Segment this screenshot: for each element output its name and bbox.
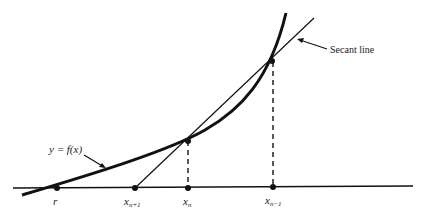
secant-line <box>135 18 314 188</box>
f-x-n-point <box>185 138 191 144</box>
x-n-plus-1-point <box>132 185 138 191</box>
x-n-minus-1-point <box>270 184 276 190</box>
curve-label: y = f(x) <box>48 143 82 156</box>
x-n-label: xn <box>182 195 192 209</box>
root-label: r <box>53 195 58 207</box>
curve-arrowhead-icon <box>99 163 106 168</box>
x-n-point <box>185 185 191 191</box>
x-n-plus-1-label: xn+1 <box>123 195 141 209</box>
root-point <box>54 185 60 191</box>
diagram-canvas: y = f(x) Secant line r xn+1 xn xn−1 <box>0 0 427 219</box>
secant-method-diagram: y = f(x) Secant line r xn+1 xn xn−1 <box>0 0 427 219</box>
f-x-n-minus-1-point <box>269 58 275 64</box>
x-n-minus-1-label: xn−1 <box>264 194 282 208</box>
function-curve <box>22 13 286 195</box>
secant-label: Secant line <box>330 44 375 55</box>
secant-label-arrow <box>300 40 327 49</box>
x-axis <box>13 186 413 188</box>
secant-arrowhead-icon <box>297 38 304 43</box>
